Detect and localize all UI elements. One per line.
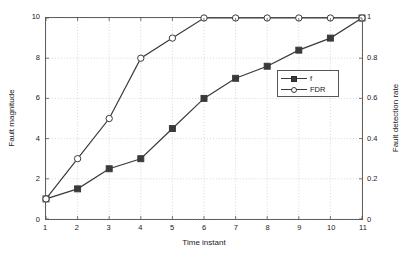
x-tick-11: 11 [359,224,367,232]
y-tick-left-4: 4 [22,135,40,143]
y-tick-right-0.4: 0.4 [367,135,377,143]
data-series-layer [46,18,362,219]
x-tick-5: 5 [170,224,174,232]
y-tick-left-0: 0 [22,216,40,224]
data-point-fdr [74,156,80,162]
data-point-f [233,75,239,81]
x-tick-8: 8 [266,224,270,232]
data-point-fdr [106,115,112,121]
legend-label-fdr: FDR [307,86,325,94]
data-point-fdr [169,35,175,41]
y-tick-right-0.8: 0.8 [367,54,377,62]
data-point-f [201,95,207,101]
y-axis-right-title: Fault detection rate [392,84,400,152]
x-axis-title: Time instant [182,239,225,247]
x-tick-2: 2 [75,224,79,232]
x-tick-4: 4 [138,224,142,232]
data-point-f [264,63,270,69]
chart-legend: f FDR [277,70,339,97]
data-point-f [106,166,112,172]
legend-swatch-circle-icon [281,84,307,95]
series-line-f [46,18,362,199]
data-point-f [296,47,302,53]
x-tick-3: 3 [107,224,111,232]
y-tick-right-1: 1 [367,13,371,21]
series-line-fdr [46,18,362,199]
data-point-f [327,35,333,41]
x-tick-6: 6 [202,224,206,232]
data-point-fdr [138,55,144,61]
x-tick-10: 10 [327,224,335,232]
y-tick-right-0: 0 [367,216,371,224]
legend-swatch-square-icon [281,73,307,84]
data-point-f [138,156,144,162]
x-tick-9: 9 [297,224,301,232]
x-tick-7: 7 [234,224,238,232]
y-tick-right-0.2: 0.2 [367,176,377,184]
y-tick-left-6: 6 [22,94,40,102]
y-tick-left-10: 10 [22,13,40,21]
y-tick-left-2: 2 [22,176,40,184]
chart-figure: 0246810 00.20.40.60.81 1234567891011 Tim… [0,0,408,261]
y-tick-left-8: 8 [22,54,40,62]
y-tick-right-0.6: 0.6 [367,94,377,102]
legend-entry-fdr: FDR [278,84,338,95]
y-axis-left-title: Fault magnitude [8,89,16,146]
data-point-f [169,126,175,132]
legend-label-f: f [307,75,312,83]
legend-entry-f: f [278,73,338,84]
plot-area [45,17,363,220]
data-point-fdr [43,196,49,202]
data-point-f [75,186,81,192]
x-tick-1: 1 [43,224,47,232]
